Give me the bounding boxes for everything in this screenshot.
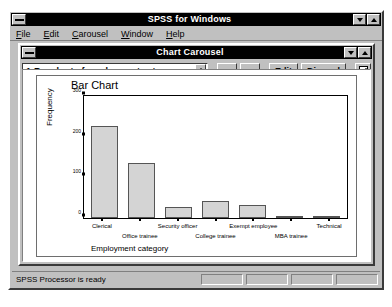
menubar: File Edit Carousel Window Help xyxy=(10,27,382,41)
status-bar: SPSS Processor is ready xyxy=(12,271,380,286)
system-menu-icon[interactable] xyxy=(12,14,26,25)
mdi-client-area: Chart Carousel 1:Bar chart of employment… xyxy=(12,41,380,268)
bar-clerical xyxy=(91,126,118,218)
status-cells xyxy=(201,274,378,285)
carousel-window-title: Chart Carousel xyxy=(36,46,344,59)
bar-college-trainee xyxy=(202,201,229,218)
menu-item-edit[interactable]: Edit xyxy=(44,27,60,41)
maximize-icon[interactable] xyxy=(358,47,371,58)
bar-slot xyxy=(197,96,234,218)
plot-area: 0100200300 xyxy=(83,95,348,219)
main-window-title: SPSS for Windows xyxy=(26,13,353,26)
menu-item-file[interactable]: File xyxy=(16,27,31,41)
bar-series xyxy=(84,96,347,218)
x-tick-mark xyxy=(252,219,254,221)
plot-wrapper: Frequency xyxy=(37,76,356,256)
x-tick-label: Technical xyxy=(317,223,342,230)
minimize-icon[interactable] xyxy=(353,14,366,25)
y-tick-mark xyxy=(82,132,85,135)
menu-item-window[interactable]: Window xyxy=(121,27,153,41)
x-tick-label: Clerical xyxy=(92,223,112,230)
spss-main-window: SPSS for Windows File Edit Carousel Wind… xyxy=(8,10,384,290)
x-tick-mark xyxy=(290,219,292,221)
bar-exempt-employee xyxy=(239,205,266,218)
bar-slot xyxy=(308,96,345,218)
status-cell xyxy=(201,274,243,285)
x-tick-label: Exempt employee xyxy=(229,223,277,230)
minimize-icon[interactable] xyxy=(344,47,357,58)
bar-slot xyxy=(86,96,123,218)
y-tick-mark xyxy=(82,214,85,217)
status-cell xyxy=(336,274,378,285)
bar-slot xyxy=(123,96,160,218)
bar-technical xyxy=(313,216,340,218)
maximize-icon[interactable] xyxy=(367,14,380,25)
x-tick-mark xyxy=(328,219,330,221)
x-axis-title: Employment category xyxy=(91,244,168,253)
chart-carousel-window: Chart Carousel 1:Bar chart of employment… xyxy=(18,43,375,266)
bar-security-officer xyxy=(165,207,192,218)
bar-slot xyxy=(234,96,271,218)
status-cell xyxy=(291,274,333,285)
y-tick-mark xyxy=(82,173,85,176)
x-tick-label: MBA trainee xyxy=(275,233,308,240)
system-menu-icon[interactable] xyxy=(22,47,36,58)
status-message: SPSS Processor is ready xyxy=(12,273,106,286)
x-tick-label: Office trainee xyxy=(122,233,158,240)
main-window-controls xyxy=(353,14,380,25)
carousel-titlebar[interactable]: Chart Carousel xyxy=(21,46,372,59)
chart-client-area: Bar Chart Frequency xyxy=(22,69,371,262)
main-titlebar[interactable]: SPSS for Windows xyxy=(11,13,381,26)
bar-office-trainee xyxy=(128,163,155,218)
x-axis-ticks xyxy=(83,219,348,221)
bar-mba-trainee xyxy=(276,216,303,218)
menu-item-carousel[interactable]: Carousel xyxy=(72,27,108,41)
bar-slot xyxy=(160,96,197,218)
carousel-window-controls xyxy=(344,47,371,58)
y-axis-title: Frequency xyxy=(45,88,54,126)
y-tick-mark xyxy=(82,92,85,95)
screen: SPSS for Windows File Edit Carousel Wind… xyxy=(0,0,392,307)
x-tick-mark xyxy=(215,219,217,221)
status-cell xyxy=(246,274,288,285)
x-tick-label: Security officer xyxy=(158,223,198,230)
bar-slot xyxy=(271,96,308,218)
x-tick-label: College trainee xyxy=(195,233,235,240)
chart-panel[interactable]: Bar Chart Frequency xyxy=(36,75,357,257)
x-tick-mark xyxy=(177,219,179,221)
x-tick-mark xyxy=(101,219,103,221)
x-tick-mark xyxy=(139,219,141,221)
menu-item-help[interactable]: Help xyxy=(166,27,185,41)
